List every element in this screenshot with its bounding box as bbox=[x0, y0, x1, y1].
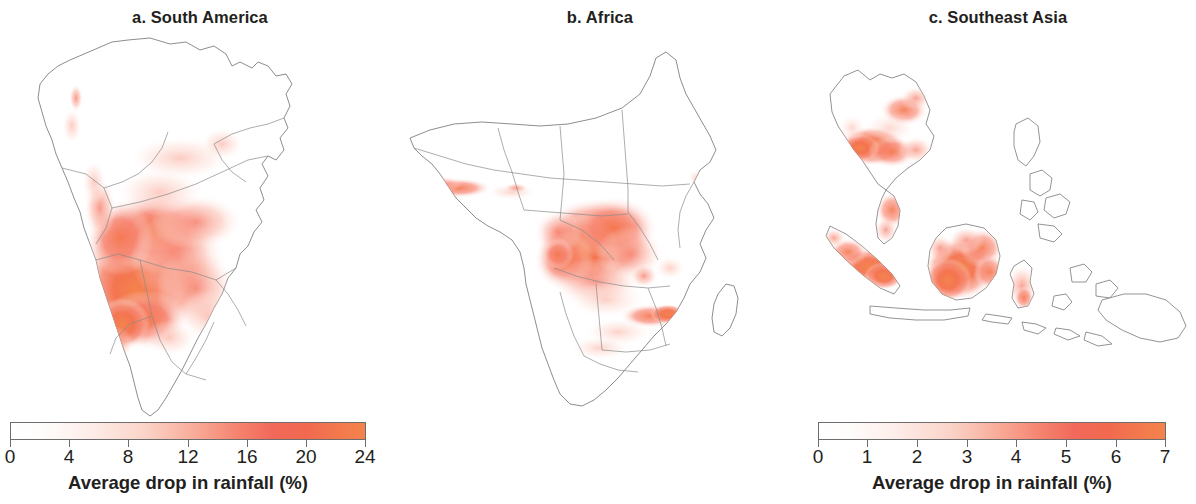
tick-label: 12 bbox=[177, 445, 198, 469]
panel-title-a: a. South America bbox=[0, 0, 400, 30]
colorbar-label-a: Average drop in rainfall (%) bbox=[10, 472, 366, 494]
map-svg-africa bbox=[400, 32, 800, 418]
panel-africa: b. Africa bbox=[400, 0, 800, 504]
tick-label: 0 bbox=[5, 445, 16, 469]
map-svg-southeast-asia bbox=[800, 32, 1196, 418]
panel-southeast-asia: c. Southeast Asia bbox=[800, 0, 1196, 504]
map-southeast-asia bbox=[800, 32, 1196, 418]
map-africa bbox=[400, 32, 800, 418]
map-svg-south-america bbox=[0, 32, 400, 418]
tick-label: 4 bbox=[64, 445, 75, 469]
map-south-america bbox=[0, 32, 400, 418]
tick-label: 16 bbox=[236, 445, 257, 469]
figure-root: a. South America bbox=[0, 0, 1196, 504]
panel-south-america: a. South America bbox=[0, 0, 400, 504]
colorbar-a bbox=[10, 422, 366, 440]
panel-title-b: b. Africa bbox=[400, 0, 800, 30]
tick-label: 24 bbox=[354, 445, 375, 469]
southeast-asia-rainfall-layer bbox=[822, 86, 1038, 310]
tick-label: 20 bbox=[295, 445, 316, 469]
colorbar-block-c: 0 1 2 3 4 Average drop in rainfall (%) bbox=[800, 418, 1196, 504]
colorbar-block-b: 0 1 2 3 4 5 6 7 Average drop in rainfall… bbox=[400, 418, 800, 504]
tick-label: 8 bbox=[123, 445, 134, 469]
panel-title-c: c. Southeast Asia bbox=[800, 0, 1196, 30]
colorbar-block-a: 0 4 8 12 16 20 24 Average drop in rainfa… bbox=[0, 418, 400, 504]
